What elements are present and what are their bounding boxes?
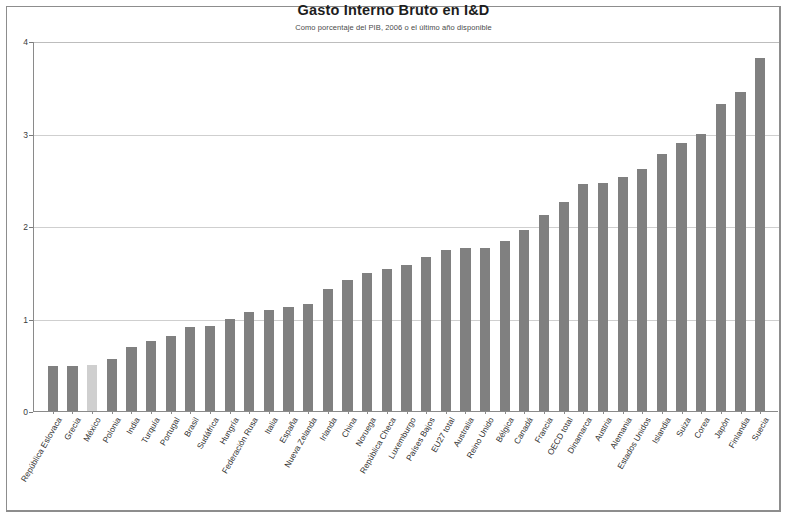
bar [618, 177, 628, 411]
x-tick-label: Irlanda [318, 416, 338, 442]
x-tick-label: Grecia [63, 416, 82, 441]
bar [342, 280, 352, 411]
x-tick-label: Brasil [183, 416, 201, 438]
x-tick-label: Suecia [750, 416, 770, 442]
chart-title: Gasto Interno Bruto en I&D [0, 2, 787, 18]
bar [755, 58, 765, 411]
bar-series [34, 41, 779, 411]
y-tick-label: 4 [6, 37, 28, 47]
chart-page: Gasto Interno Bruto en I&D Como porcenta… [0, 0, 787, 518]
plot-area [33, 42, 778, 412]
bar [657, 154, 667, 411]
y-tick-label: 3 [6, 130, 28, 140]
y-tick-label: 0 [6, 407, 28, 417]
x-tick-label: India [125, 416, 141, 436]
x-tick-label: Austria [593, 416, 613, 443]
bar [283, 307, 293, 411]
bar [716, 104, 726, 411]
x-tick-label: Canadá [513, 416, 535, 445]
bar [696, 134, 706, 411]
x-tick-label: Japón [713, 416, 731, 440]
y-tick-mark [29, 135, 33, 136]
bar [637, 169, 647, 411]
bar [480, 248, 490, 411]
y-tick-mark [29, 320, 33, 321]
chart-subtitle: Como porcentaje del PIB, 2006 o el últim… [0, 23, 787, 32]
x-tick-label: Suiza [674, 416, 692, 438]
bar [362, 273, 372, 411]
x-tick-label: China [340, 416, 358, 439]
y-tick-mark [29, 42, 33, 43]
bar [146, 341, 156, 411]
bar [205, 326, 215, 411]
bar [559, 202, 569, 411]
y-tick-label: 2 [6, 222, 28, 232]
x-tick-label: Polonia [101, 416, 122, 444]
bar [48, 366, 58, 411]
bar [735, 92, 745, 411]
bar [578, 184, 588, 411]
y-tick-mark [29, 227, 33, 228]
x-tick-label: Islandia [651, 416, 672, 445]
bar [519, 230, 529, 411]
bar [598, 183, 608, 411]
bar [539, 215, 549, 411]
x-tick-label: Corea [693, 416, 711, 440]
y-tick-label: 1 [6, 315, 28, 325]
x-tick-label: Italia [263, 416, 279, 435]
x-axis-labels: República EslovacaGreciaMéxicoPoloniaInd… [33, 412, 787, 518]
